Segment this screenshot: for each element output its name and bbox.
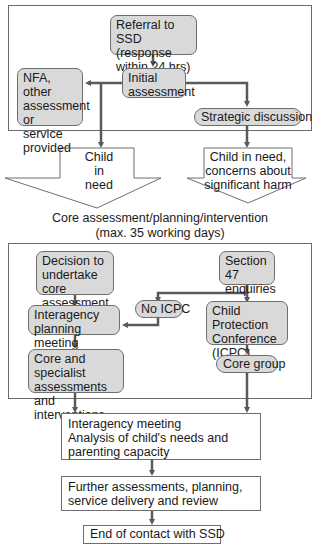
strategic-discussion-box: Strategic discussion bbox=[194, 108, 302, 126]
core-group-box: Core group bbox=[216, 355, 278, 373]
referral-box: Referral to SSD (response within 24 hrs) bbox=[110, 15, 197, 55]
planning-meeting-box: Interagency planning meeting bbox=[28, 305, 120, 335]
section47-box: Section 47 enquiries bbox=[219, 251, 275, 285]
core-specialist-label: Core and specialist assessments and inte… bbox=[34, 352, 107, 422]
harm-label: Child in need, concerns about significan… bbox=[204, 150, 292, 192]
icpc-box: Child Protection Conference (ICPC) bbox=[206, 301, 288, 345]
initial-assessment-box: Initial assessment bbox=[122, 68, 186, 98]
decision-box: Decision to undertake core assessment bbox=[36, 251, 114, 295]
end-of-contact-label: End of contact with SSD bbox=[90, 527, 225, 541]
strategic-discussion-label: Strategic discussion bbox=[201, 110, 312, 124]
nfa-box: NFA, other assessment or service provide… bbox=[17, 68, 83, 126]
no-icpc-label: No ICPC bbox=[141, 302, 190, 316]
section47-label: Section 47 enquiries bbox=[225, 254, 276, 296]
core-specialist-box: Core and specialist assessments and inte… bbox=[28, 349, 124, 393]
interagency-meeting-box: Interagency meeting Analysis of child's … bbox=[61, 413, 261, 460]
further-assessments-label: Further assessments, planning, service d… bbox=[68, 480, 242, 508]
interagency-detail: Analysis of child's needs and parenting … bbox=[68, 431, 254, 459]
decision-label: Decision to undertake core assessment bbox=[42, 254, 109, 310]
referral-label: Referral to SSD (response within 24 hrs) bbox=[116, 18, 190, 74]
no-icpc-box: No ICPC bbox=[135, 300, 183, 318]
further-assessments-box: Further assessments, planning, service d… bbox=[61, 476, 261, 511]
core-group-label: Core group bbox=[223, 357, 286, 371]
core-assessment-caption: Core assessment/planning/intervention (m… bbox=[0, 211, 320, 241]
initial-assessment-label: Initial assessment bbox=[128, 71, 195, 99]
end-of-contact-box: End of contact with SSD bbox=[83, 525, 221, 544]
child-in-need-label: Child in need bbox=[80, 150, 118, 192]
interagency-title: Interagency meeting bbox=[68, 417, 254, 431]
